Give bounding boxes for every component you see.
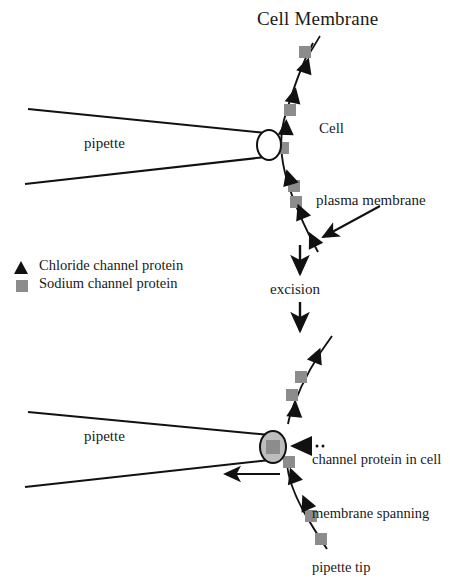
pipette-top [25, 109, 281, 184]
chloride-channel-protein [278, 119, 295, 136]
chloride-channel-protein [286, 400, 304, 418]
pipette-lower-edge [25, 157, 266, 184]
pipette-upper-edge [28, 412, 270, 435]
pipette-upper-edge [28, 109, 266, 133]
sodium-channel-protein [286, 389, 298, 401]
cell-label: Cell [319, 120, 344, 138]
page-title: Cell Membrane [257, 8, 378, 30]
legend-label: Sodium channel protein [39, 275, 178, 292]
sodium-channel-protein [299, 46, 311, 58]
sodium-channel-protein [295, 371, 307, 383]
pipette-bottom-label: pipette [84, 428, 125, 446]
pipette-bottom [25, 412, 286, 487]
chloride-channel-protein [302, 228, 323, 249]
legend-item-chloride: Chloride channel protein [14, 258, 234, 275]
excised-patch-panel [25, 336, 332, 549]
plasma-membrane-arrow [323, 206, 380, 237]
annotation-line: pipette tip [312, 559, 441, 577]
plasma-membrane-label: plasma membrane [316, 192, 426, 210]
excision-label: excision [270, 281, 320, 299]
pipette-top-label: pipette [84, 135, 125, 153]
cell-attached-panel [25, 36, 380, 252]
channel-protein-annotation: channel protein in cell membrane spannin… [312, 415, 441, 579]
pipette-tip-opening [257, 130, 281, 160]
legend: Chloride channel protein Sodium channel … [14, 258, 234, 294]
sodium-channel-protein [284, 104, 296, 116]
triangle-marker-icon [14, 261, 28, 274]
annotation-arrowhead-icon [290, 436, 312, 456]
excised-membrane-patch-protein [266, 440, 280, 454]
sodium-channel-protein [283, 456, 295, 468]
legend-item-sodium: Sodium channel protein [14, 276, 234, 293]
annotation-line: membrane spanning [312, 505, 441, 523]
square-marker-icon [16, 280, 28, 292]
annotation-line: channel protein in cell [312, 451, 441, 469]
legend-label: Chloride channel protein [39, 257, 183, 274]
